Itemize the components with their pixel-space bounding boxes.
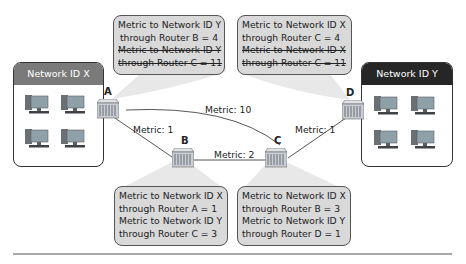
computer-icon <box>24 92 50 116</box>
callout-line-struck: through Router C = 11 <box>118 57 220 70</box>
computer-icon <box>410 127 436 151</box>
callout-line: Metric to Network ID X <box>119 190 223 203</box>
callout-line-struck: Metric to Network ID X <box>242 44 347 57</box>
metric-a-b-label: Metric: 1 <box>133 124 173 135</box>
computer-icon <box>60 126 86 150</box>
callout-line: Metric to Network ID X <box>242 19 347 32</box>
callout-line: Metric to Network ID Y <box>242 215 346 228</box>
router-c-label: C <box>274 135 281 146</box>
callout-line-struck: through Router C = 11 <box>242 57 347 70</box>
computer-icon <box>373 93 399 117</box>
callout-line: Metric to Network ID X <box>242 190 346 203</box>
callout-line: Metric to Network ID Y <box>119 215 223 228</box>
computer-icon <box>373 127 399 151</box>
network-y-header: Network ID Y <box>362 63 452 85</box>
callout-line: through Router B = 3 <box>242 203 346 216</box>
callout-line: through Router C = 4 <box>242 32 347 45</box>
routing-callout-d: Metric to Network ID X through Router C … <box>237 15 352 75</box>
metric-a-c-label: Metric: 10 <box>205 104 251 115</box>
router-d-icon <box>342 100 364 120</box>
callout-line: through Router D = 1 <box>242 228 346 241</box>
routing-callout-c: Metric to Network ID X through Router B … <box>237 186 351 246</box>
callout-line: Metric to Network ID Y <box>118 19 220 32</box>
metric-c-d-label: Metric: 1 <box>295 124 335 135</box>
link-a-b <box>112 116 172 157</box>
network-x-header: Network ID X <box>14 63 103 85</box>
router-d-label: D <box>346 87 354 98</box>
callout-line-struck: Metric to Network ID Y <box>118 44 220 57</box>
router-c-icon <box>265 148 287 168</box>
computer-icon <box>24 126 50 150</box>
routing-callout-a: Metric to Network ID Y through Router B … <box>113 15 225 75</box>
computer-icon <box>60 92 86 116</box>
computer-icon <box>410 93 436 117</box>
callout-line: through Router B = 4 <box>118 32 220 45</box>
router-b-label: B <box>181 135 189 146</box>
callout-line: through Router C = 3 <box>119 228 223 241</box>
router-a-icon <box>97 99 119 119</box>
router-b-icon <box>172 148 194 168</box>
metric-b-c-label: Metric: 2 <box>214 149 254 160</box>
callout-line: through Router A = 1 <box>119 203 223 216</box>
router-a-label: A <box>104 86 112 97</box>
routing-callout-b: Metric to Network ID X through Router A … <box>114 186 228 246</box>
